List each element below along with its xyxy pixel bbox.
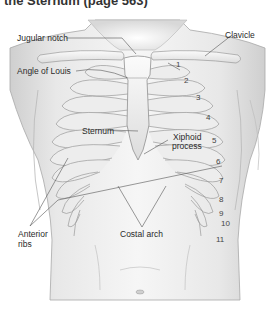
rib-number-11: 11	[216, 235, 224, 244]
rib-number-7: 7	[219, 176, 223, 185]
navel	[136, 290, 144, 294]
label-sternum: Sternum	[82, 126, 114, 136]
rib-number-10: 10	[221, 219, 230, 228]
rib-number-5: 5	[212, 136, 216, 145]
rib-number-4: 4	[206, 113, 210, 122]
chest-anatomy-figure: the Sternum (page 563)	[0, 0, 275, 315]
rib-number-9: 9	[219, 209, 223, 218]
label-angle-of-louis: Angle of Louis	[17, 66, 71, 76]
torso-illustration	[0, 0, 275, 315]
rib-number-8: 8	[219, 195, 223, 204]
label-xiphoid-line2: process	[172, 141, 202, 151]
label-costal-arch: Costal arch	[120, 229, 163, 239]
rib-number-3: 3	[196, 93, 200, 102]
label-clavicle: Clavicle	[225, 30, 255, 40]
rib-number-6: 6	[216, 157, 220, 166]
rib-number-1: 1	[176, 60, 180, 69]
label-anterior-ribs-line1: Anterior	[18, 229, 48, 239]
label-anterior-ribs-line2: ribs	[18, 239, 32, 249]
rib-number-2: 2	[184, 76, 188, 85]
label-jugular-notch: Jugular notch	[17, 33, 68, 43]
